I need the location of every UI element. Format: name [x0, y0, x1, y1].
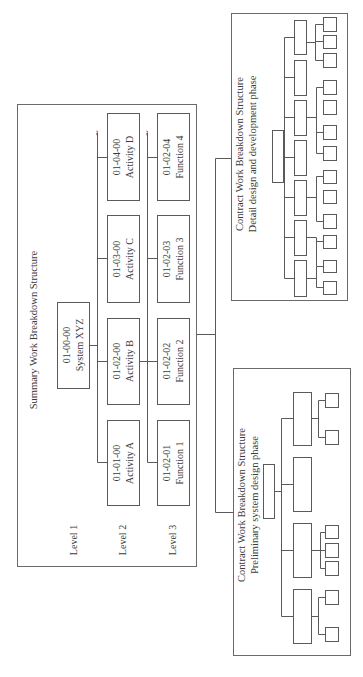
- node-name: Function 2: [174, 339, 185, 382]
- level-2-label: Level 2: [117, 525, 128, 555]
- contract-detail-subtitle: Detail design and development phase: [247, 75, 258, 232]
- node-code: 01-03-00: [111, 241, 122, 278]
- summary-wbs-title: Summary Work Breakdown Structure: [28, 250, 39, 409]
- contract-preliminary-leaves: [326, 394, 339, 642]
- contract-detail-branches: [295, 21, 307, 297]
- node-name: Activity A: [124, 441, 135, 484]
- contract-preliminary-root: [264, 465, 275, 519]
- node-code: 01-02-03: [161, 241, 172, 278]
- node-name: Function 3: [174, 237, 185, 280]
- contract-wbs-detail-design: Contract Work Breakdown Structure Detail…: [232, 14, 348, 301]
- node-activity-d: 01-04-00 Activity D: [108, 114, 140, 201]
- level-1-label: Level 1: [68, 525, 79, 555]
- summary-to-contract-connector: [197, 159, 234, 513]
- node-code: 01-02-01: [161, 445, 172, 482]
- contract-detail-title: Contract Work Breakdown Structure: [234, 77, 245, 231]
- node-function-2: 01-02-02 Function 2: [158, 319, 190, 405]
- continuation-mark: ~: [91, 130, 102, 136]
- node-activity-a: 01-01-00 Activity A: [108, 421, 140, 506]
- node-code: 01-00-00: [61, 327, 72, 364]
- node-name: Activity B: [124, 340, 135, 382]
- node-name: System XYZ: [74, 319, 85, 372]
- node-name: Function 1: [174, 441, 185, 484]
- node-name: Function 4: [174, 135, 185, 178]
- node-function-4: 01-02-04 Function 4: [158, 114, 190, 201]
- contract-wbs-preliminary: Contract Work Breakdown Structure Prelim…: [234, 369, 351, 656]
- level-3-label: Level 3: [167, 525, 178, 555]
- node-function-1: 01-02-01 Function 1: [158, 421, 190, 506]
- node-code: 01-02-02: [161, 343, 172, 380]
- summary-wbs: Summary Work Breakdown Structure Level 1…: [18, 105, 197, 567]
- continuation-mark: ~: [141, 130, 152, 136]
- node-code: 01-02-04: [161, 139, 172, 176]
- node-activity-c: 01-03-00 Activity C: [108, 216, 140, 303]
- contract-detail-root: [273, 131, 284, 183]
- contract-preliminary-title: Contract Work Breakdown Structure: [236, 428, 247, 582]
- node-name: Activity C: [124, 238, 135, 280]
- wbs-diagram: Summary Work Breakdown Structure Level 1…: [0, 0, 363, 677]
- node-activity-b: 01-02-00 Activity B: [108, 319, 140, 405]
- node-code: 01-01-00: [111, 445, 122, 482]
- contract-preliminary-subtitle: Preliminary system design phase: [249, 436, 260, 574]
- node-code: 01-04-00: [111, 139, 122, 176]
- contract-preliminary-branches: [294, 393, 312, 644]
- node-function-3: 01-02-03 Function 3: [158, 216, 190, 303]
- node-system-xyz: 01-00-00 System XYZ: [58, 303, 90, 389]
- node-code: 01-02-00: [111, 343, 122, 380]
- contract-detail-leaves: [324, 18, 337, 295]
- node-name: Activity D: [124, 136, 135, 179]
